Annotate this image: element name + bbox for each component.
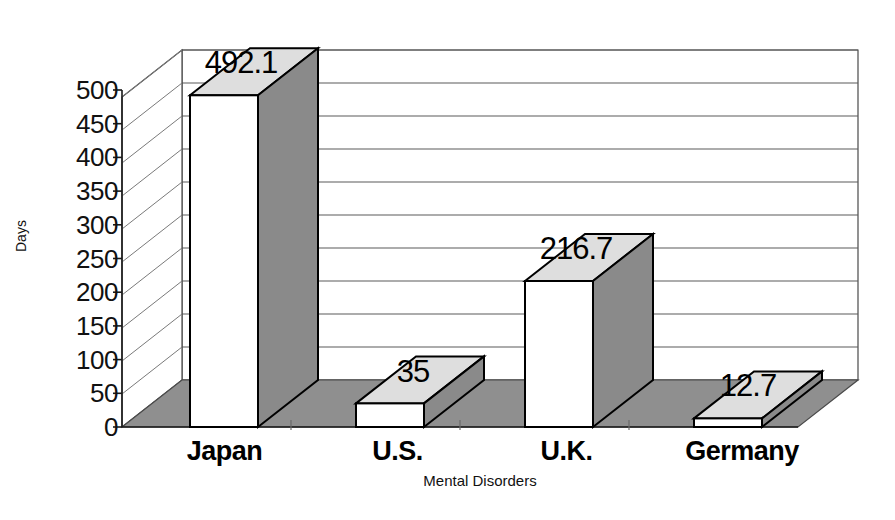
x-axis-title: Mental Disorders xyxy=(380,472,580,490)
value-label-germany: 12.7 xyxy=(693,369,803,402)
value-label-uk: 216.7 xyxy=(511,232,641,265)
y-tick-label: 450 xyxy=(56,111,118,137)
y-tick-label: 100 xyxy=(56,347,118,373)
y-tick-label: 150 xyxy=(56,313,118,339)
y-tick-label: 350 xyxy=(56,178,118,204)
y-tick-label: 250 xyxy=(56,246,118,272)
bar-japan-side xyxy=(258,48,318,427)
category-label-us: U.S. xyxy=(325,436,470,466)
y-tick-label: 50 xyxy=(56,380,118,406)
value-label-us: 35 xyxy=(373,355,453,388)
y-tick-label: 300 xyxy=(56,212,118,238)
bar-japan-front xyxy=(190,95,258,427)
y-tick-label: 200 xyxy=(56,279,118,305)
category-label-uk: U.K. xyxy=(494,436,639,466)
category-label-japan: Japan xyxy=(152,436,297,466)
y-axis-title: Days xyxy=(14,220,28,252)
y-tick-label: 400 xyxy=(56,144,118,170)
category-label-germany: Germany xyxy=(652,436,832,466)
bar-chart: 500 450 400 350 300 250 200 150 100 50 0… xyxy=(0,0,895,520)
bar-japan[interactable] xyxy=(190,48,318,427)
y-tick-label: 0 xyxy=(56,414,118,440)
bar-us-front xyxy=(356,403,424,427)
bar-uk-front xyxy=(525,281,593,427)
bar-germany-front xyxy=(694,418,762,427)
y-axis-tick-labels: 500 450 400 350 300 250 200 150 100 50 0 xyxy=(50,0,118,520)
value-label-japan: 492.1 xyxy=(176,46,306,79)
y-tick-label: 500 xyxy=(56,77,118,103)
